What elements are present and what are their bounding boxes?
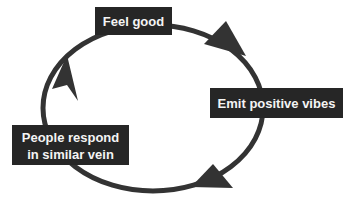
arrowhead-to-emit-icon xyxy=(204,21,246,56)
node-people-respond: People respond in similar vein xyxy=(12,125,129,165)
node-emit-positive-vibes: Emit positive vibes xyxy=(210,88,343,118)
node-label-line-1: People respond xyxy=(22,129,120,146)
arrowhead-to-feel-good-icon xyxy=(52,55,78,101)
node-label: Feel good xyxy=(103,13,164,30)
node-feel-good: Feel good xyxy=(95,7,172,35)
node-label: Emit positive vibes xyxy=(218,95,336,112)
node-label-line-2: in similar vein xyxy=(27,146,114,163)
